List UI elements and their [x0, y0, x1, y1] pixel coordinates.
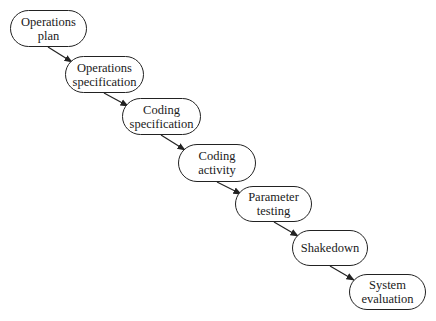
arrow-n3-to-n4 [161, 135, 185, 150]
arrow-n5-to-n6 [274, 222, 298, 236]
node-label: Shakedown [301, 241, 359, 255]
arrow-n2-to-n3 [104, 93, 128, 106]
node-label: Operationsplan [21, 15, 76, 43]
node-label: Systemevaluation [361, 278, 413, 306]
process-node-shakedown: Shakedown [292, 230, 368, 266]
node-label: Codingspecification [130, 103, 194, 131]
arrow-n1-to-n2 [48, 47, 72, 62]
process-node-parameter-testing: Parametertesting [235, 186, 312, 222]
process-node-system-evaluation: Systemevaluation [349, 274, 426, 310]
node-label: Parametertesting [248, 190, 299, 218]
process-node-coding-activity: Codingactivity [178, 144, 256, 182]
arrow-n6-to-n7 [330, 266, 354, 280]
arrow-n4-to-n5 [217, 182, 241, 194]
process-node-coding-specification: Codingspecification [122, 98, 201, 135]
node-label: Codingactivity [198, 149, 236, 177]
node-label: Operationsspecification [73, 61, 137, 89]
process-node-operations-specification: Operationsspecification [65, 56, 144, 93]
process-node-operations-plan: Operationsplan [10, 10, 87, 47]
